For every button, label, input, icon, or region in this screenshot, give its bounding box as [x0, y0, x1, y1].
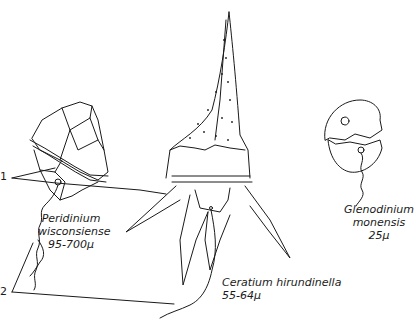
- ceratium-drawing: [126, 12, 290, 318]
- surface-dots: [189, 39, 233, 141]
- callout-2-leader-up: [12, 243, 33, 292]
- glenodinium-species: monensis: [342, 216, 416, 229]
- peridinium-genus: Peridinium: [38, 212, 104, 225]
- ceratium-label: Ceratium hirundinella 55-64μ: [222, 276, 362, 302]
- ceratium-size: 55-64μ: [222, 289, 362, 302]
- glenodinium-label: Glenodinium monensis 25μ: [342, 203, 416, 242]
- peridinium-label: Peridinium wisconsiense 95-700μ: [38, 212, 104, 251]
- glenodinium-drawing: [325, 100, 382, 206]
- callout-number-2: 2: [0, 285, 7, 298]
- callout-2-leader-across: [12, 292, 174, 304]
- glenodinium-size: 25μ: [342, 229, 416, 242]
- peridinium-size: 95-700μ: [38, 238, 104, 251]
- glenodinium-genus: Glenodinium: [342, 203, 416, 216]
- peridinium-species: wisconsiense: [38, 225, 104, 238]
- ceratium-name: Ceratium hirundinella: [222, 276, 362, 289]
- callout-number-1: 1: [0, 170, 7, 183]
- callout-1-leader: [12, 178, 166, 194]
- peridinium-drawing: [30, 102, 108, 290]
